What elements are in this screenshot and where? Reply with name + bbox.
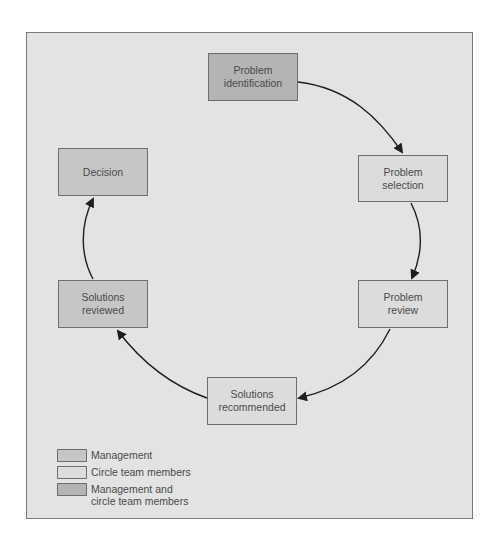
legend-swatch bbox=[57, 466, 87, 479]
legend-label: Management and circle team members bbox=[91, 483, 188, 507]
legend-swatch bbox=[57, 483, 87, 496]
node-problem-review: Problem review bbox=[358, 280, 448, 328]
legend-item-management: Management bbox=[57, 449, 152, 462]
node-problem-selection: Problem selection bbox=[358, 155, 448, 202]
node-label: Solutions recommended bbox=[218, 388, 285, 414]
legend-swatch bbox=[57, 449, 87, 462]
arrow-review-to-recommended bbox=[299, 329, 390, 398]
node-label: Problem identification bbox=[224, 64, 282, 90]
node-solutions-recommended: Solutions recommended bbox=[207, 377, 297, 425]
legend-label: Management bbox=[91, 449, 152, 461]
arrow-recommended-to-reviewed bbox=[118, 331, 207, 398]
arrow-reviewed-to-decision bbox=[83, 199, 93, 279]
node-label: Problem review bbox=[383, 291, 422, 317]
node-label: Problem selection bbox=[382, 166, 423, 192]
node-label: Solutions reviewed bbox=[81, 291, 124, 317]
node-label: Decision bbox=[83, 166, 123, 179]
node-decision: Decision bbox=[58, 148, 148, 196]
legend-label: Circle team members bbox=[91, 466, 191, 478]
legend-item-circle-team: Circle team members bbox=[57, 466, 191, 479]
node-solutions-reviewed: Solutions reviewed bbox=[58, 280, 148, 328]
node-problem-identification: Problem identification bbox=[208, 53, 298, 101]
legend-item-management-and-circle: Management and circle team members bbox=[57, 483, 188, 507]
arrow-selection-to-review bbox=[411, 203, 421, 278]
arrow-identification-to-selection bbox=[298, 82, 402, 152]
